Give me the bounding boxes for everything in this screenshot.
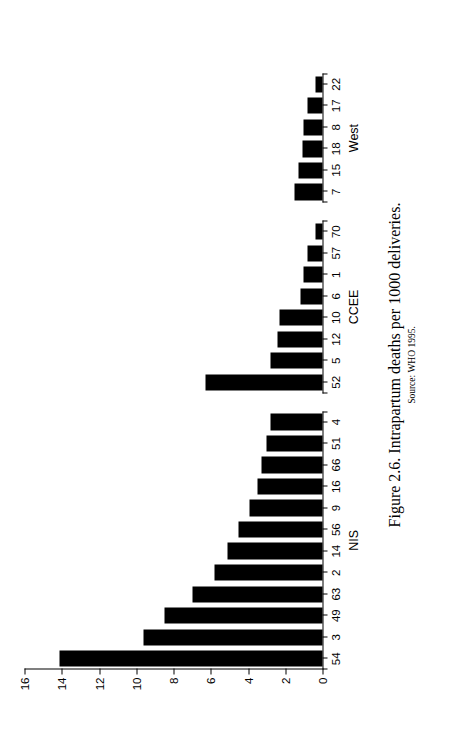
category-axis-tick-label: 4 <box>329 418 341 424</box>
bar-slot <box>24 604 322 626</box>
category-axis-tick-label: 2 <box>329 569 341 575</box>
bar-slot <box>24 138 322 160</box>
bar-slot <box>24 73 322 95</box>
value-axis-tick-label: 16 <box>18 677 30 690</box>
category-axis-tick-label: 18 <box>329 142 341 155</box>
category-axis-end-tick <box>322 411 327 412</box>
figure-page: 0246810121416 Number/1 000 births 543496… <box>0 0 469 729</box>
bar-slot <box>24 242 322 264</box>
category-axis-tick-label: 70 <box>329 225 341 238</box>
value-axis-tick-label: 8 <box>167 677 179 683</box>
value-axis-tick <box>61 668 62 674</box>
bar <box>227 543 322 559</box>
category-axis-tick-label: 8 <box>329 124 341 130</box>
category-axis-tick-label: 63 <box>329 587 341 600</box>
value-axis-tick <box>210 668 211 674</box>
category-axis-tick-label: 16 <box>329 480 341 493</box>
category-axis-tick-label: 49 <box>329 609 341 622</box>
category-axis-tick-label: 12 <box>329 332 341 345</box>
category-axis-tick-label: 5 <box>329 357 341 363</box>
bar <box>303 119 322 135</box>
bar-slot <box>24 220 322 242</box>
category-axis-end-tick <box>322 220 327 221</box>
group-gap <box>24 202 322 220</box>
bar <box>266 435 322 451</box>
category-axis-tick-label: 6 <box>329 293 341 299</box>
category-axis-tick-label: 51 <box>329 437 341 450</box>
bar <box>238 521 322 537</box>
value-axis-tick <box>24 668 25 674</box>
category-axis-tick-label: 7 <box>329 188 341 194</box>
bar <box>257 478 322 494</box>
category-axis-tick-label: 14 <box>329 544 341 557</box>
bar-slot <box>24 350 322 372</box>
category-axis-tick-label: 10 <box>329 311 341 324</box>
category-axis-end-tick <box>322 668 327 669</box>
category-axis-tick-label: 54 <box>329 652 341 665</box>
bar-slot <box>24 328 322 350</box>
bar <box>164 607 322 623</box>
bar <box>59 650 322 666</box>
bar <box>270 413 322 429</box>
category-axis-tick-label: 17 <box>329 99 341 112</box>
bar <box>315 76 322 92</box>
value-axis-tick <box>136 668 137 674</box>
value-axis: 0246810121416 <box>24 668 322 669</box>
category-axis-segment <box>322 411 323 669</box>
bar <box>192 586 322 602</box>
value-axis-tick <box>285 668 286 674</box>
group-label-nis: NIS <box>346 529 360 550</box>
plot-area <box>24 73 322 669</box>
category-axis-tick-label: 1 <box>329 271 341 277</box>
bar <box>279 309 322 325</box>
category-axis-tick-label: 22 <box>329 77 341 90</box>
bar-slot <box>24 181 322 203</box>
category-axis-tick-label: 66 <box>329 458 341 471</box>
value-axis-tick-label: 2 <box>279 677 291 683</box>
value-axis-tick-label: 14 <box>55 677 67 690</box>
bar <box>298 162 322 178</box>
value-axis-tick-label: 12 <box>93 677 105 690</box>
bar <box>261 456 322 472</box>
bar-slot <box>24 411 322 433</box>
bar-slot <box>24 263 322 285</box>
bar-slot <box>24 454 322 476</box>
bar-slot <box>24 285 322 307</box>
category-axis-tick-label: 15 <box>329 163 341 176</box>
value-axis-tick-label: 4 <box>242 677 254 683</box>
value-axis-tick-label: 6 <box>204 677 216 683</box>
bar-slot <box>24 306 322 328</box>
bar-slot <box>24 371 322 393</box>
bar-slot <box>24 561 322 583</box>
bar <box>143 629 322 645</box>
bar-slot <box>24 497 322 519</box>
group-label-ccee: CCEE <box>346 289 360 324</box>
bar <box>315 223 322 239</box>
figure-caption: Figure 2.6. Intrapartum deaths per 1000 … <box>385 0 416 729</box>
bar-slot <box>24 159 322 181</box>
category-axis-end-tick <box>322 73 327 74</box>
category-axis-tick-label: 52 <box>329 375 341 388</box>
bar-slot <box>24 432 322 454</box>
category-axis-tick-label: 56 <box>329 523 341 536</box>
group-gap <box>24 393 322 411</box>
bar <box>294 183 322 199</box>
value-axis-tick <box>248 668 249 674</box>
bar <box>300 288 322 304</box>
value-axis-tick <box>173 668 174 674</box>
bar <box>270 352 322 368</box>
category-axis-segment <box>322 220 323 392</box>
value-axis-tick-label: 10 <box>130 677 142 690</box>
bar-slot <box>24 583 322 605</box>
bar <box>214 564 322 580</box>
bar <box>249 499 322 515</box>
bar-slot <box>24 518 322 540</box>
bar <box>205 374 322 390</box>
bar <box>303 266 322 282</box>
bar-slot <box>24 116 322 138</box>
bar <box>307 97 322 113</box>
bar-series <box>24 73 322 669</box>
caption-title: Figure 2.6. Intrapartum deaths per 1000 … <box>385 0 403 729</box>
caption-source: Source: WHO 1995. <box>406 0 416 729</box>
bar-slot <box>24 540 322 562</box>
